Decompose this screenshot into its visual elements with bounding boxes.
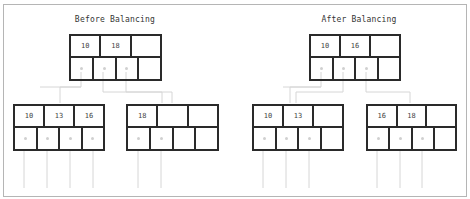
key-cell: 10	[311, 36, 341, 56]
pointer-cell	[254, 128, 277, 149]
key-cell	[314, 106, 342, 126]
pointer-cell	[60, 128, 83, 149]
pointer-cell	[390, 128, 412, 149]
pointer-dot-icon	[377, 137, 380, 140]
after-right-child-node: 16 18	[366, 104, 457, 151]
key-cell: 16	[341, 36, 371, 56]
key-cell: 18	[398, 106, 428, 126]
key-cell: 10	[254, 106, 284, 126]
pointer-cell	[299, 128, 322, 149]
pointer-dot-icon	[308, 137, 311, 140]
pointer-cell	[83, 128, 104, 149]
key-cell: 10	[71, 36, 101, 56]
pointer-cell	[139, 58, 160, 79]
pointer-dot-icon	[69, 137, 72, 140]
pointer-dot-icon	[24, 137, 27, 140]
pointer-cell	[435, 128, 455, 149]
pointer-cell	[128, 128, 151, 149]
pointer-cell	[94, 58, 117, 79]
pointer-cell	[151, 128, 174, 149]
pointer-dot-icon	[46, 137, 49, 140]
before-right-child-node: 18	[126, 104, 219, 151]
connector-lines	[0, 0, 470, 199]
after-root-node: 10 16	[309, 34, 401, 81]
key-cell	[427, 106, 455, 126]
key-cell: 10	[15, 106, 45, 126]
panel-title-after: After Balancing	[289, 15, 429, 24]
pointer-dot-icon	[399, 137, 402, 140]
pointer-dot-icon	[137, 137, 140, 140]
before-root-node: 10 18	[69, 34, 162, 81]
pointer-dot-icon	[160, 137, 163, 140]
key-cell	[132, 36, 160, 56]
key-cell: 16	[75, 106, 103, 126]
key-cell: 18	[128, 106, 158, 126]
pointer-cell	[413, 128, 435, 149]
pointer-cell	[368, 128, 390, 149]
pointer-cell	[174, 128, 197, 149]
pointer-dot-icon	[103, 67, 106, 70]
key-cell	[371, 36, 399, 56]
pointer-dot-icon	[365, 67, 368, 70]
after-left-child-node: 10 13	[252, 104, 344, 151]
pointer-dot-icon	[285, 137, 288, 140]
key-cell: 16	[368, 106, 398, 126]
pointer-dot-icon	[263, 137, 266, 140]
pointer-cell	[379, 58, 400, 79]
key-cell: 13	[284, 106, 314, 126]
before-left-child-node: 10 13 16	[13, 104, 105, 151]
pointer-cell	[311, 58, 334, 79]
pointer-cell	[15, 128, 38, 149]
pointer-cell	[117, 58, 140, 79]
pointer-dot-icon	[342, 67, 345, 70]
pointer-dot-icon	[91, 137, 94, 140]
key-cell	[158, 106, 188, 126]
pointer-cell	[334, 58, 357, 79]
pointer-cell	[38, 128, 61, 149]
pointer-cell	[277, 128, 300, 149]
pointer-cell	[356, 58, 379, 79]
pointer-cell	[322, 128, 343, 149]
pointer-dot-icon	[320, 67, 323, 70]
key-cell	[189, 106, 217, 126]
pointer-cell	[71, 58, 94, 79]
pointer-dot-icon	[125, 67, 128, 70]
pointer-dot-icon	[421, 137, 424, 140]
key-cell: 18	[101, 36, 131, 56]
panel-title-before: Before Balancing	[45, 15, 185, 24]
key-cell: 13	[45, 106, 75, 126]
pointer-dot-icon	[80, 67, 83, 70]
pointer-cell	[196, 128, 217, 149]
